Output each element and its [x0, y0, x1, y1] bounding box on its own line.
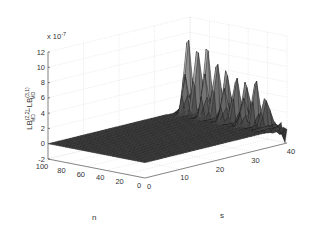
y-tick-label: 0	[137, 181, 141, 190]
y-tick-label: 80	[57, 166, 65, 175]
z-tick-label: 6	[41, 93, 45, 102]
x-tick-label: 0	[147, 182, 151, 191]
surface-plot: -2024681012020406080100010203040 s n x 1…	[0, 0, 313, 240]
z-tick-label: 8	[41, 78, 45, 87]
y-tick-label: 20	[115, 177, 123, 186]
y-tick-label: 100	[36, 162, 49, 171]
x-tick-label: 20	[216, 165, 224, 174]
x-tick-label: 30	[251, 156, 259, 165]
x-tick-label: 40	[287, 147, 295, 156]
z-tick-label: 10	[37, 63, 45, 72]
z-tick-label: 0	[41, 139, 45, 148]
x-axis-label: s	[220, 211, 224, 220]
z-tick-label: 2	[41, 124, 45, 133]
y-tick-label: 40	[96, 173, 104, 182]
z-exponent-label: x 10-7	[47, 31, 66, 41]
x-tick-label: 10	[180, 173, 188, 182]
z-tick-label: 12	[37, 48, 45, 57]
z-axis-label: LB(2,2)MD−LB(3,1)MD	[24, 87, 36, 130]
y-tick-label: 60	[77, 170, 85, 179]
z-tick-label: 4	[41, 109, 45, 118]
y-axis-label: n	[92, 213, 96, 222]
